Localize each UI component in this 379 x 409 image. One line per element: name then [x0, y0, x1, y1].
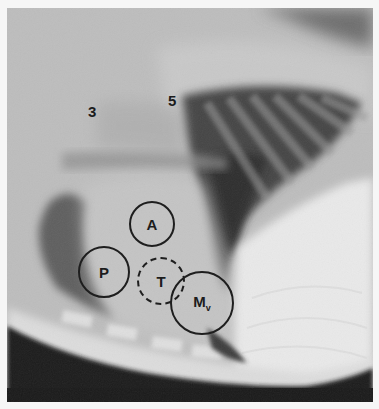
- mitral-valve-label: Mv: [193, 294, 211, 313]
- mitral-valve-subscript: v: [206, 303, 211, 313]
- radiograph-frame: 3 5 A P T Mv: [7, 8, 373, 402]
- aortic-valve-label: A: [147, 217, 158, 232]
- aortic-valve-area: A: [129, 201, 175, 247]
- pulmonic-valve-area: P: [78, 246, 130, 298]
- mitral-valve-letter: M: [193, 293, 206, 310]
- pulmonic-valve-label: P: [99, 265, 109, 280]
- rib-label-3: 3: [88, 104, 96, 119]
- mitral-valve-area: Mv: [170, 271, 234, 335]
- tricuspid-valve-label: T: [156, 274, 165, 289]
- radiograph-image: [7, 8, 373, 402]
- rib-label-5: 5: [168, 93, 176, 108]
